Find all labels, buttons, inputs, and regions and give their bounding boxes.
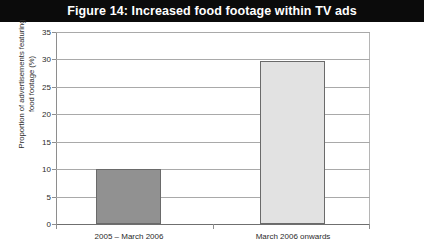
x-axis-category-label-0: 2005 – March 2006 bbox=[68, 232, 190, 241]
y-tick-label-10: 10 bbox=[42, 165, 51, 174]
y-axis-title: Proportion of advertisements featuring f… bbox=[17, 0, 37, 169]
y-axis-title-line-1: Proportion of advertisements featuring bbox=[17, 0, 27, 169]
y-tick-mark-10 bbox=[52, 169, 56, 170]
x-axis-right-tick bbox=[369, 224, 370, 229]
y-tick-label-5: 5 bbox=[47, 192, 51, 201]
x-axis-mid-tick bbox=[213, 224, 214, 229]
y-tick-label-20: 20 bbox=[42, 110, 51, 119]
figure-title-bar: Figure 14: Increased food footage within… bbox=[0, 0, 424, 22]
bar-march-2006-onwards bbox=[260, 61, 325, 224]
bar-2005-march-2006 bbox=[96, 169, 161, 224]
gridline-35 bbox=[56, 32, 370, 33]
y-tick-mark-30 bbox=[52, 59, 56, 60]
y-tick-label-25: 25 bbox=[42, 82, 51, 91]
y-tick-label-15: 15 bbox=[42, 137, 51, 146]
page-title: Figure 14: Increased food footage within… bbox=[67, 4, 356, 18]
x-axis-category-label-1: March 2006 onwards bbox=[232, 232, 354, 241]
y-axis-title-line-2: food footage (%) bbox=[27, 0, 37, 169]
y-tick-mark-35 bbox=[52, 32, 56, 33]
y-tick-mark-25 bbox=[52, 87, 56, 88]
y-tick-label-35: 35 bbox=[42, 28, 51, 37]
plot-area: 05101520253035 2005 – March 2006 March 2… bbox=[56, 32, 370, 224]
y-tick-mark-20 bbox=[52, 114, 56, 115]
y-tick-label-30: 30 bbox=[42, 55, 51, 64]
y-tick-mark-5 bbox=[52, 197, 56, 198]
x-axis-left-tick bbox=[56, 224, 57, 229]
y-tick-mark-15 bbox=[52, 142, 56, 143]
figure-body: Proportion of advertisements featuring f… bbox=[0, 22, 424, 247]
y-tick-label-0: 0 bbox=[47, 220, 51, 229]
